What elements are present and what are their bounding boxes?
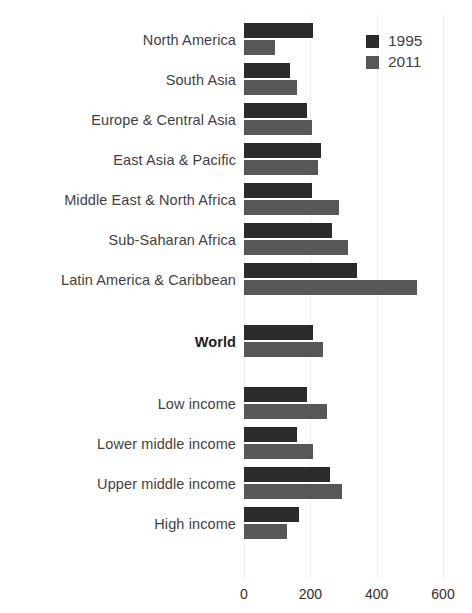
chart-row: High income	[244, 504, 444, 544]
bar-2011	[244, 524, 287, 539]
x-tick-label: 200	[299, 586, 322, 602]
chart-row: Low income	[244, 384, 444, 424]
bar-2011	[244, 404, 327, 419]
chart-row: Latin America & Caribbean	[244, 260, 444, 300]
category-label: Low income	[158, 396, 236, 412]
legend-swatch-1995-icon	[366, 35, 379, 48]
bar-1995	[244, 467, 330, 482]
x-axis: 0200400600	[244, 586, 444, 608]
bar-chart: North AmericaSouth AsiaEurope & Central …	[0, 0, 472, 613]
category-label: North America	[143, 32, 236, 48]
chart-row: Europe & Central Asia	[244, 100, 444, 140]
bar-1995	[244, 325, 313, 340]
legend-label: 1995	[388, 32, 422, 50]
chart-row: East Asia & Pacific	[244, 140, 444, 180]
category-label: East Asia & Pacific	[113, 152, 236, 168]
x-tick-label: 600	[431, 586, 454, 602]
bar-1995	[244, 103, 307, 118]
legend-item: 1995	[366, 32, 422, 50]
bar-2011	[244, 40, 275, 55]
category-label: Europe & Central Asia	[91, 112, 236, 128]
legend-label: 2011	[388, 53, 421, 71]
bar-1995	[244, 263, 357, 278]
x-tick-label: 400	[365, 586, 388, 602]
category-label: High income	[154, 516, 236, 532]
bar-2011	[244, 200, 339, 215]
bar-1995	[244, 507, 299, 522]
bar-2011	[244, 280, 417, 295]
bar-2011	[244, 160, 318, 175]
bar-2011	[244, 444, 313, 459]
bar-1995	[244, 143, 321, 158]
bar-2011	[244, 240, 348, 255]
plot-area: North AmericaSouth AsiaEurope & Central …	[244, 14, 444, 579]
bar-1995	[244, 223, 332, 238]
legend-item: 2011	[366, 53, 422, 71]
legend-swatch-2011-icon	[366, 56, 379, 69]
category-label: World	[195, 334, 236, 350]
bar-2011	[244, 342, 323, 357]
cropped-title-remnant	[150, 0, 350, 3]
bar-2011	[244, 484, 342, 499]
bar-2011	[244, 120, 312, 135]
chart-legend: 19952011	[366, 32, 422, 71]
category-label: Lower middle income	[97, 436, 236, 452]
category-label: Upper middle income	[97, 476, 236, 492]
chart-row: Upper middle income	[244, 464, 444, 504]
chart-row: Middle East & North Africa	[244, 180, 444, 220]
category-label: South Asia	[166, 72, 236, 88]
category-label: Sub-Saharan Africa	[108, 232, 236, 248]
x-tick-label: 0	[240, 586, 248, 602]
category-label: Latin America & Caribbean	[61, 272, 236, 288]
bar-1995	[244, 427, 297, 442]
chart-row: Lower middle income	[244, 424, 444, 464]
bar-2011	[244, 80, 297, 95]
bar-1995	[244, 23, 313, 38]
bar-1995	[244, 63, 290, 78]
category-label: Middle East & North Africa	[64, 192, 236, 208]
bar-1995	[244, 183, 312, 198]
chart-row: Sub-Saharan Africa	[244, 220, 444, 260]
bar-1995	[244, 387, 307, 402]
chart-row: World	[244, 322, 444, 362]
